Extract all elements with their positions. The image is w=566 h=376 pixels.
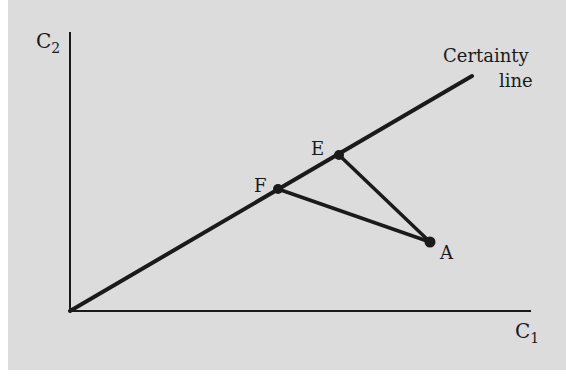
segment-f-a (278, 189, 430, 242)
segment-e-a (339, 155, 430, 242)
point-e-label: E (311, 138, 324, 159)
y-axis-label-sub: 2 (51, 40, 60, 56)
point-f-label: F (254, 175, 267, 196)
point-a (425, 237, 436, 248)
certainty-line-label-2: line (499, 70, 533, 91)
point-e (334, 150, 344, 160)
x-axis-label: C1 (515, 319, 539, 346)
x-axis-label-main: C (515, 319, 530, 343)
certainty-line-diagram: E F A C2 C1 Certainty line (0, 0, 566, 376)
certainty-line-label-1: Certainty (443, 45, 530, 66)
point-a-label: A (439, 242, 454, 263)
y-axis-label-main: C (36, 29, 51, 53)
x-axis-label-sub: 1 (530, 330, 539, 346)
y-axis-label: C2 (36, 29, 60, 56)
point-f (273, 184, 283, 194)
certainty-line (70, 76, 472, 311)
